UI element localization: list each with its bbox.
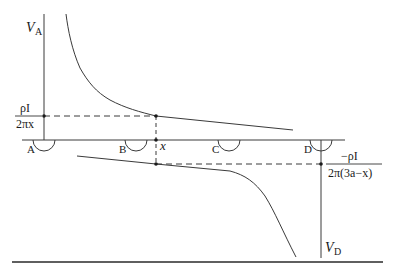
vd-label-subscript: D bbox=[334, 246, 341, 257]
electrode-a-icon bbox=[33, 140, 55, 151]
electrode-d-label: D bbox=[304, 143, 312, 155]
vd-potential-curve bbox=[77, 156, 296, 257]
electrode-a-label: A bbox=[27, 143, 35, 155]
va-label-subscript: A bbox=[35, 26, 43, 37]
lower-value-denominator: 2π(3a−x) bbox=[328, 166, 372, 180]
electrode-c-label: C bbox=[212, 143, 219, 155]
upper-left-dot bbox=[42, 114, 46, 118]
upper-value-numerator: ρI bbox=[20, 101, 30, 115]
upper-value-denominator: 2πx bbox=[16, 117, 34, 131]
electrode-potential-diagram: V A ρI 2πx A B C D x −ρI 2π(3a−x) V D bbox=[0, 0, 393, 273]
electrode-c-icon bbox=[218, 140, 240, 151]
va-potential-curve bbox=[66, 14, 293, 130]
electrode-b-label: B bbox=[119, 143, 126, 155]
position-x-label: x bbox=[159, 138, 166, 153]
lower-right-dot bbox=[319, 162, 323, 166]
electrode-b-icon bbox=[125, 140, 147, 151]
baseline-point-dot bbox=[154, 138, 158, 142]
upper-point-dot bbox=[154, 114, 158, 118]
lower-point-dot bbox=[154, 162, 158, 166]
lower-value-numerator: −ρI bbox=[341, 149, 358, 163]
